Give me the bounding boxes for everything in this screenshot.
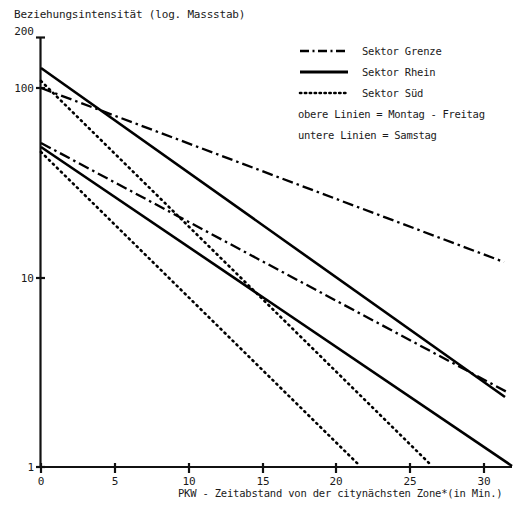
y-axis-tick-label-100: 100: [4, 82, 34, 95]
legend-swatches: [300, 51, 348, 93]
chart-canvas: Beziehungsintensität (log. Massstab): [0, 0, 519, 509]
series-line-sektor-grenze-samstag: [41, 143, 507, 392]
x-axis-title: PKW - Zeitabstand von der citynächsten Z…: [178, 488, 502, 499]
series-line-sektor-rhein-samstag: [41, 147, 512, 466]
legend-note-obere-linien: obere Linien = Montag - Freitag: [298, 108, 485, 120]
axes: [36, 37, 512, 473]
y-axis-tick-label-200: 200: [4, 25, 34, 38]
series-lines: [41, 68, 512, 466]
x-axis-tick-label-5: 5: [103, 475, 127, 488]
legend-note-untere-linien: untere Linien = Samstag: [298, 129, 437, 141]
chart-plot-area: [0, 0, 519, 509]
legend-item-label-sektor-rhein: Sektor Rhein: [362, 66, 435, 78]
series-line-sektor-sued-samstag: [41, 152, 360, 466]
legend-item-label-sektor-sued: Sektor Süd: [362, 87, 423, 99]
x-axis-tick-label-0: 0: [29, 475, 53, 488]
y-axis-tick-label-1: 1: [4, 461, 34, 474]
legend-item-label-sektor-grenze: Sektor Grenze: [362, 45, 442, 57]
y-axis-tick-label-10: 10: [4, 272, 34, 285]
